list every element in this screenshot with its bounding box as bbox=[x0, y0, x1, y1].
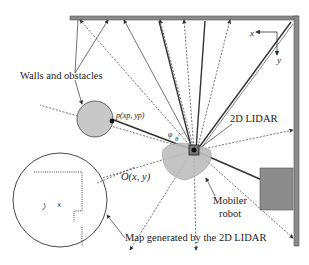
axis-x-label: x bbox=[250, 29, 254, 38]
top-wall bbox=[70, 16, 298, 20]
mobile-robot bbox=[162, 143, 211, 180]
angle-phi-label: φ bbox=[168, 131, 172, 139]
lidar-mapping-diagram: x Walls and obstacles p(xp, yp) 2D LIDAR… bbox=[0, 0, 309, 265]
lidar-label: 2D LIDAR bbox=[230, 114, 278, 125]
obstacle-box bbox=[260, 168, 293, 210]
robot-label: Mobiler robot bbox=[205, 196, 255, 221]
coordinate-axes bbox=[256, 32, 277, 55]
map-label: Map generated by the 2D LIDAR bbox=[125, 233, 266, 244]
obstacle-circle bbox=[77, 101, 113, 137]
angle-theta-label: θ bbox=[175, 136, 178, 143]
robot-label-line2: robot bbox=[205, 209, 255, 220]
origin-label: O(x, y) bbox=[121, 172, 150, 183]
lidar-sensor bbox=[192, 148, 197, 153]
map-inset: x bbox=[13, 153, 135, 247]
right-wall bbox=[294, 16, 299, 246]
axis-y-label: y bbox=[277, 56, 281, 65]
diagram-canvas: x bbox=[0, 0, 309, 265]
hit-point bbox=[110, 119, 115, 124]
robot-label-line1: Mobiler bbox=[205, 196, 255, 207]
point-label: p(xp, yp) bbox=[116, 112, 144, 120]
walls-label: Walls and obstacles bbox=[20, 71, 103, 82]
svg-text:x: x bbox=[57, 201, 61, 209]
